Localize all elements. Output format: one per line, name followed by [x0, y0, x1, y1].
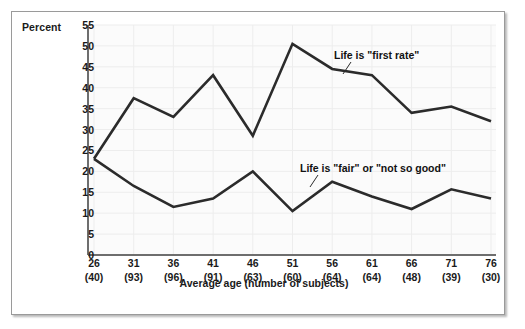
x-tick-age: 31: [124, 256, 143, 270]
x-tick-subject-count: (39): [442, 270, 461, 284]
x-tick-label: 26(40): [85, 256, 104, 284]
x-tick-age: 41: [204, 256, 223, 270]
x-tick-age: 46: [243, 256, 262, 270]
x-tick-age: 51: [283, 256, 302, 270]
x-tick-age: 56: [323, 256, 342, 270]
x-tick-label: 76(30): [482, 256, 501, 284]
x-axis-title-line1: Average age: [180, 277, 242, 289]
series-label-fair-or-not-so-good: Life is "fair" or "not so good": [300, 162, 446, 174]
x-tick-label: 31(93): [124, 256, 143, 284]
x-tick-age: 76: [482, 256, 501, 270]
x-tick-subject-count: (48): [402, 270, 421, 284]
x-tick-label: 71(39): [442, 256, 461, 284]
x-axis-title: Average age (number of subjects): [180, 276, 349, 290]
x-tick-subject-count: (93): [124, 270, 143, 284]
x-axis-title-line2: (number of subjects): [245, 277, 349, 289]
x-tick-age: 61: [363, 256, 382, 270]
x-tick-label: 61(64): [363, 256, 382, 284]
x-tick-age: 36: [164, 256, 183, 270]
x-tick-subject-count: (40): [85, 270, 104, 284]
x-tick-age: 26: [85, 256, 104, 270]
series-label-first-rate: Life is "first rate": [334, 49, 419, 61]
chart-figure: Percent 0510152025303540455055 26(40)31(…: [0, 0, 525, 329]
x-tick-subject-count: (30): [482, 270, 501, 284]
x-tick-age: 71: [442, 256, 461, 270]
x-tick-subject-count: (64): [363, 270, 382, 284]
x-tick-label: 66(48): [402, 256, 421, 284]
x-tick-age: 66: [402, 256, 421, 270]
